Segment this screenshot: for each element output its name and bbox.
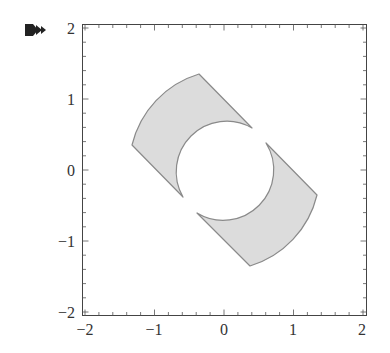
x-tick-label: −1: [145, 321, 162, 338]
y-tick-label: 2: [67, 20, 75, 37]
plot-frame: [83, 25, 367, 316]
plot-regions: [132, 74, 317, 266]
region-plot: −2 −1 0 1 2 2 1 0 −1 −2: [0, 0, 390, 353]
region-lower-right: [197, 143, 317, 266]
axis-ticks: [83, 25, 367, 316]
y-tick-label: −1: [58, 233, 75, 250]
x-tick-label: −2: [76, 321, 93, 338]
x-tick-label: 2: [358, 321, 366, 338]
region-upper-left: [132, 74, 252, 197]
x-tick-label: 1: [289, 321, 297, 338]
y-axis-labels: 2 1 0 −1 −2: [58, 20, 75, 321]
x-axis-labels: −2 −1 0 1 2: [76, 321, 366, 338]
y-tick-label: −2: [58, 304, 75, 321]
y-tick-label: 0: [67, 162, 75, 179]
x-tick-label: 0: [220, 321, 228, 338]
y-tick-label: 1: [67, 91, 75, 108]
